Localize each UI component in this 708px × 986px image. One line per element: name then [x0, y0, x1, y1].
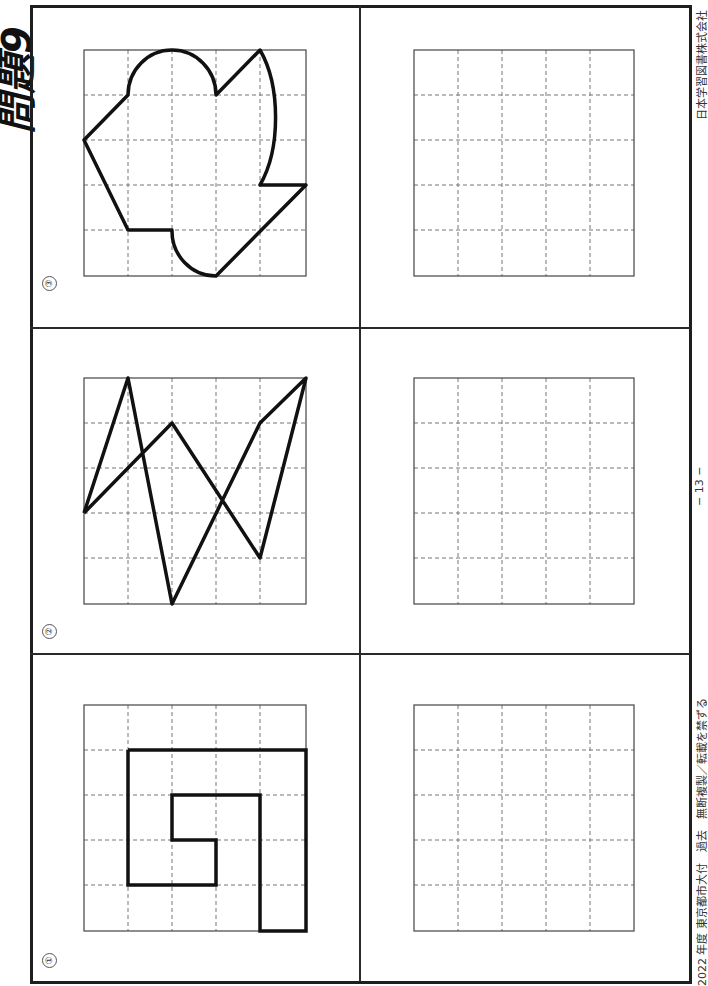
row-divider-bottom — [30, 653, 690, 655]
answer-grid-1[interactable] — [414, 705, 634, 931]
page-number: − 13 − — [693, 467, 706, 506]
problem-2-figure — [84, 378, 306, 604]
problem-1-figure — [84, 705, 306, 931]
problem-number-2: ② — [42, 624, 57, 639]
column-divider — [359, 5, 361, 982]
answer-grid-2[interactable] — [414, 378, 634, 604]
problem-3-figure — [84, 50, 306, 276]
answer-grid-3[interactable] — [414, 50, 634, 276]
row-divider-top — [30, 327, 690, 329]
publisher-name: 日本学習図書株式会社 — [693, 10, 708, 120]
problem-number-3: ③ — [42, 276, 57, 291]
source-note: 2022 年度 東京都市大付 過去 無断複製／転載を禁ずる — [693, 698, 708, 986]
problem-number-1: ① — [42, 953, 57, 968]
